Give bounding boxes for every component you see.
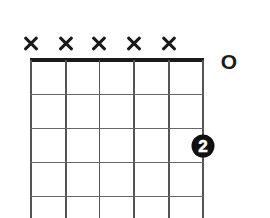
string-line-2 — [65, 60, 67, 218]
string-line-1 — [30, 60, 32, 218]
finger-number: 2 — [198, 138, 207, 155]
fret-line-4 — [30, 196, 204, 197]
chord-diagram: O 2 — [0, 0, 270, 218]
string-line-5 — [168, 60, 170, 218]
mute-x-icon-string-1 — [23, 35, 39, 51]
mute-x-icon-string-4 — [126, 35, 142, 51]
finger-dot: 2 — [192, 135, 215, 158]
open-string-marker: O — [221, 51, 237, 72]
string-line-3 — [99, 60, 101, 218]
mute-x-icon-string-5 — [161, 35, 177, 51]
fret-line-2 — [30, 128, 204, 129]
fret-line-1 — [30, 94, 204, 95]
nut — [30, 58, 204, 62]
fret-line-3 — [30, 162, 204, 163]
mute-x-icon-string-2 — [58, 35, 74, 51]
mute-x-icon-string-3 — [91, 35, 107, 51]
string-line-4 — [133, 60, 135, 218]
